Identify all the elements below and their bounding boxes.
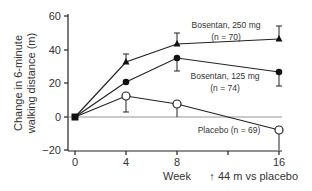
y-tick-0: 0 xyxy=(55,111,61,123)
y-tick-20: 20 xyxy=(49,77,61,89)
open-circle-marker xyxy=(122,92,130,100)
x-tick-0: 0 xyxy=(72,156,78,168)
triangle-marker xyxy=(276,35,283,42)
label-bosentan-125-n: (n = 74) xyxy=(210,83,240,93)
x-axis xyxy=(68,151,282,155)
open-circle-marker xyxy=(173,100,181,108)
label-placebo: Placebo (n = 69) xyxy=(198,125,261,135)
baseline-square-marker xyxy=(72,114,79,121)
annotation-vs-placebo: ↑ 44 m vs placebo xyxy=(209,170,298,182)
x-tick-4: 4 xyxy=(123,156,129,168)
y-axis-label-line2: walking distance (m) xyxy=(25,33,37,134)
open-circle-marker xyxy=(275,126,283,134)
y-tick-minus20: −20 xyxy=(42,144,61,156)
y-axis-label: Change in 6-minute walking distance (m) xyxy=(12,33,37,134)
x-tick-16: 16 xyxy=(273,156,285,168)
filled-circle-marker xyxy=(174,55,181,62)
x-axis-label: Week xyxy=(163,170,191,182)
y-tick-labels: 60 40 20 0 −20 xyxy=(42,10,61,156)
label-bosentan-250: Bosentan, 250 mg xyxy=(192,20,261,30)
filled-circle-marker xyxy=(276,69,283,76)
x-tick-labels: 0 4 8 16 xyxy=(72,156,285,168)
filled-circle-marker xyxy=(123,79,130,86)
label-bosentan-125: Bosentan, 125 mg xyxy=(191,71,260,81)
line-chart: 60 40 20 0 −20 Change in 6-minute walkin… xyxy=(0,0,312,191)
y-axis-label-line1: Change in 6-minute xyxy=(12,35,24,131)
y-axis xyxy=(64,14,68,151)
triangle-marker xyxy=(174,40,181,47)
label-bosentan-250-n: (n = 70) xyxy=(211,32,241,42)
y-tick-60: 60 xyxy=(49,10,61,22)
x-tick-8: 8 xyxy=(174,156,180,168)
y-tick-40: 40 xyxy=(49,44,61,56)
